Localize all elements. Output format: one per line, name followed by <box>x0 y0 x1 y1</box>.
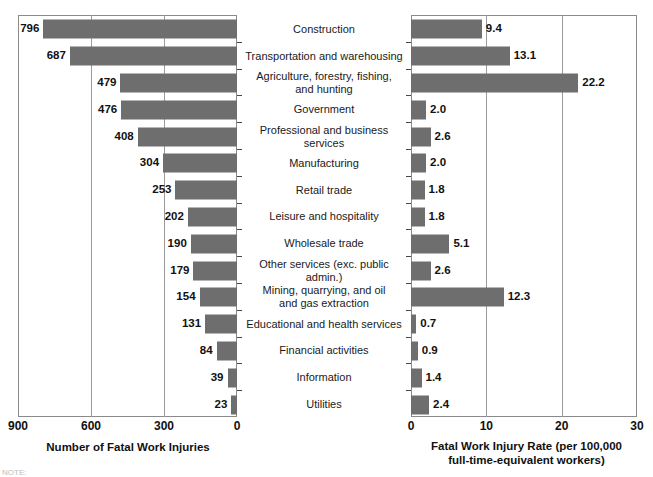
bar-row: 131 <box>18 310 237 339</box>
bar <box>138 127 237 146</box>
bar-value-label: 796 <box>20 24 39 36</box>
bar-row: 179 <box>18 256 237 285</box>
x-axis-tick-label: 0 <box>408 420 415 432</box>
bar-value-label: 5.1 <box>453 238 469 250</box>
bar-value-label: 479 <box>97 77 116 89</box>
category-label: Utilities <box>306 398 341 411</box>
category-label: Retail trade <box>296 184 352 197</box>
category-row: Construction <box>240 15 408 44</box>
bar-row: 13.1 <box>411 42 637 71</box>
category-label: Leisure and hospitality <box>269 210 378 223</box>
bar-value-label: 154 <box>176 292 195 304</box>
category-row: Other services (exc. public admin.) <box>240 256 408 285</box>
bar <box>411 127 431 146</box>
bar-row: 2.4 <box>411 390 637 419</box>
x-axis-tick-label: 10 <box>480 420 493 432</box>
bar <box>411 207 425 226</box>
category-label: Government <box>294 103 355 116</box>
bar-row: 190 <box>18 229 237 258</box>
category-label: Information <box>296 371 351 384</box>
bar-row: 22.2 <box>411 69 637 98</box>
bar-row: 476 <box>18 95 237 124</box>
bar-value-label: 131 <box>182 318 201 330</box>
bar-value-label: 687 <box>47 50 66 62</box>
bar-value-label: 2.0 <box>430 158 446 170</box>
bar <box>411 181 425 200</box>
bar-value-label: 13.1 <box>514 50 536 62</box>
bar-row: 1.8 <box>411 176 637 205</box>
bar <box>411 261 431 280</box>
bar-row: 1.8 <box>411 203 637 232</box>
footnote: NOTE: <box>2 469 422 477</box>
category-row: Government <box>240 95 408 124</box>
bar-value-label: 408 <box>115 131 134 143</box>
chart-panel-rates: 9.413.122.22.02.62.01.81.85.12.612.30.70… <box>411 15 637 417</box>
bar-value-label: 12.3 <box>508 292 530 304</box>
bar <box>200 288 237 307</box>
bar <box>411 47 510 66</box>
bar-row: 0.9 <box>411 337 637 366</box>
bars-left: 7966874794764083042532021901791541318439… <box>18 15 237 417</box>
bar <box>411 315 416 334</box>
x-axis-tick-label: 900 <box>8 420 28 432</box>
bar-value-label: 2.0 <box>430 104 446 116</box>
category-row: Agriculture, forestry, fishing, and hunt… <box>240 69 408 98</box>
x-axis-tick-label: 20 <box>555 420 568 432</box>
bar-row: 479 <box>18 69 237 98</box>
bar <box>205 315 237 334</box>
bar <box>411 341 418 360</box>
category-label: Transportation and warehousing <box>245 50 402 63</box>
bar <box>120 73 237 92</box>
bar-row: 9.4 <box>411 15 637 44</box>
bar <box>163 154 237 173</box>
bar-value-label: 0.7 <box>420 318 436 330</box>
bar <box>411 154 426 173</box>
x-axis-title-right-line2: full-time-equivalent workers) <box>400 453 653 467</box>
category-row: Mining, quarrying, and oil and gas extra… <box>240 283 408 312</box>
bar <box>175 181 237 200</box>
x-axis-title-left: Number of Fatal Work Injuries <box>0 440 256 454</box>
bar <box>121 100 237 119</box>
x-axis-tick-label: 300 <box>154 420 174 432</box>
category-label-column: ConstructionTransportation and warehousi… <box>240 15 408 417</box>
bar <box>411 20 482 39</box>
category-row: Leisure and hospitality <box>240 203 408 232</box>
bar-row: 408 <box>18 122 237 151</box>
category-label: Mining, quarrying, and oil and gas extra… <box>263 284 386 310</box>
category-row: Information <box>240 363 408 392</box>
bar-row: 796 <box>18 15 237 44</box>
bar-value-label: 2.6 <box>435 131 451 143</box>
x-axis-title-right: Fatal Work Injury Rate (per 100,000 full… <box>400 439 653 468</box>
bar <box>70 47 237 66</box>
bar <box>411 368 422 387</box>
x-axis-tick-label: 30 <box>630 420 643 432</box>
bar-row: 2.0 <box>411 149 637 178</box>
category-label: Agriculture, forestry, fishing, and hunt… <box>256 70 392 96</box>
bar-value-label: 190 <box>168 238 187 250</box>
category-row: Educational and health services <box>240 310 408 339</box>
bar-value-label: 304 <box>140 158 159 170</box>
bar-value-label: 22.2 <box>582 77 604 89</box>
x-axis-tick-label: 600 <box>81 420 101 432</box>
category-label: Educational and health services <box>246 318 401 331</box>
bar-row: 1.4 <box>411 363 637 392</box>
bar-value-label: 2.4 <box>433 399 449 411</box>
bar-row: 39 <box>18 363 237 392</box>
bar-row: 0.7 <box>411 310 637 339</box>
category-label: Manufacturing <box>289 157 359 170</box>
fatal-work-injuries-figure: 7966874794764083042532021901791541318439… <box>0 0 653 477</box>
bar-value-label: 0.9 <box>422 345 438 357</box>
bar-value-label: 1.4 <box>426 372 442 384</box>
bar-row: 5.1 <box>411 229 637 258</box>
bar-row: 202 <box>18 203 237 232</box>
bar-row: 154 <box>18 283 237 312</box>
category-row: Professional and business services <box>240 122 408 151</box>
category-row: Utilities <box>240 390 408 419</box>
category-label: Financial activities <box>279 344 368 357</box>
bar-row: 2.0 <box>411 95 637 124</box>
category-row: Transportation and warehousing <box>240 42 408 71</box>
bar <box>217 341 237 360</box>
bar <box>411 288 504 307</box>
x-axis-title-right-line1: Fatal Work Injury Rate (per 100,000 <box>400 439 653 453</box>
bar-row: 2.6 <box>411 256 637 285</box>
